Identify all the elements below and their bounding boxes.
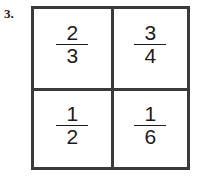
fraction-grid: 2 3 3 4 1 2 1 6 [31,6,190,170]
fraction-3-4: 3 4 [134,23,166,66]
grid-cell-top-left[interactable]: 2 3 [34,9,111,88]
numerator: 1 [66,104,78,125]
denominator: 4 [144,45,156,66]
numerator: 1 [144,104,156,125]
problem-number-label: 3. [4,7,14,20]
grid-cell-bottom-right[interactable]: 1 6 [111,88,188,167]
grid-cell-top-right[interactable]: 3 4 [111,9,188,88]
denominator: 3 [66,45,78,66]
denominator: 2 [66,126,78,147]
numerator: 3 [144,23,156,44]
numerator: 2 [66,23,78,44]
fraction-2-3: 2 3 [56,23,88,66]
denominator: 6 [144,126,156,147]
fraction-1-6: 1 6 [134,104,166,147]
fraction-1-2: 1 2 [56,104,88,147]
grid-cell-bottom-left[interactable]: 1 2 [34,88,111,167]
